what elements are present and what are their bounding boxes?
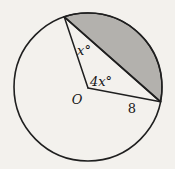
angle-4x-label: 4x° (89, 74, 112, 89)
center-point-label: O (72, 92, 83, 107)
diagram-canvas: x° 4x° O 8 (0, 0, 175, 169)
geometry-diagram: x° 4x° O 8 (0, 0, 175, 169)
radius-length-label: 8 (128, 101, 136, 116)
angle-x-label: x° (77, 43, 91, 58)
